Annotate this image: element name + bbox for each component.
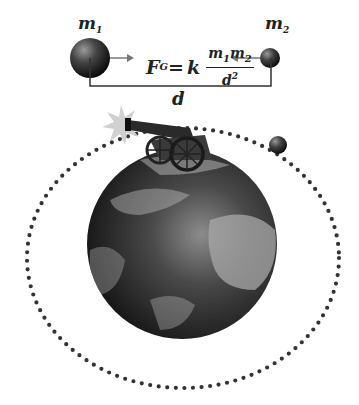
formula-fraction: m1m2 d2 <box>206 46 254 87</box>
mass-1-label: m1 <box>78 13 102 35</box>
mass-2-label: m2 <box>265 13 289 35</box>
earth-globe <box>87 149 277 339</box>
gravitation-formula: FG = k m1m2 d2 <box>146 46 254 87</box>
mass-2-sphere <box>260 48 280 68</box>
cannonball <box>269 136 287 154</box>
distance-label: d <box>172 88 185 109</box>
